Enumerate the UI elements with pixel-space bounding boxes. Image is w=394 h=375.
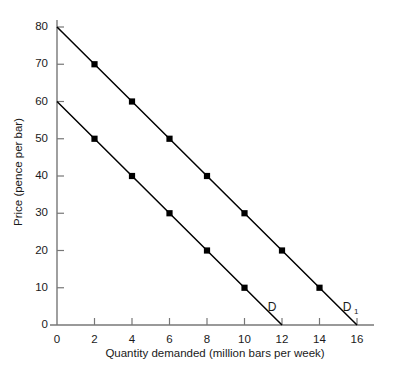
series-layer: DD1 bbox=[57, 27, 359, 325]
y-tick-label: 20 bbox=[35, 244, 48, 256]
series-marker-D1 bbox=[204, 173, 210, 179]
series-D: D bbox=[57, 102, 282, 326]
series-marker-D bbox=[129, 173, 135, 179]
series-marker-D1 bbox=[279, 247, 285, 253]
series-marker-D1 bbox=[91, 61, 97, 67]
axes-group bbox=[50, 20, 374, 325]
y-tick-label: 80 bbox=[35, 20, 48, 32]
series-marker-D1 bbox=[316, 285, 322, 291]
x-tick-label: 4 bbox=[129, 333, 136, 345]
y-tick-label: 10 bbox=[35, 281, 48, 293]
x-tick-label: 10 bbox=[238, 333, 251, 345]
chart-canvas: 01020304050607080 0246810121416 DD1 Quan… bbox=[0, 0, 394, 375]
y-axis-ticks: 01020304050607080 bbox=[35, 20, 64, 330]
x-tick-label: 8 bbox=[204, 333, 210, 345]
y-axis-title: Price (pence per bar) bbox=[12, 118, 24, 226]
x-tick-label: 6 bbox=[166, 333, 172, 345]
series-label-D1: D bbox=[343, 300, 352, 314]
series-marker-D1 bbox=[129, 98, 135, 104]
x-tick-label: 12 bbox=[276, 333, 289, 345]
series-label-subscript-D1: 1 bbox=[354, 307, 359, 316]
series-marker-D1 bbox=[241, 210, 247, 216]
series-marker-D bbox=[166, 210, 172, 216]
x-tick-label: 16 bbox=[351, 333, 364, 345]
series-D1: D1 bbox=[57, 27, 359, 325]
series-label-D: D bbox=[268, 300, 277, 314]
y-tick-label: 0 bbox=[42, 318, 48, 330]
series-marker-D1 bbox=[166, 136, 172, 142]
y-tick-label: 30 bbox=[35, 206, 48, 218]
x-axis-ticks: 0246810121416 bbox=[54, 318, 364, 345]
x-tick-label: 2 bbox=[91, 333, 97, 345]
x-tick-label: 0 bbox=[54, 333, 60, 345]
y-tick-label: 70 bbox=[35, 57, 48, 69]
series-marker-D bbox=[91, 136, 97, 142]
series-marker-D bbox=[241, 285, 247, 291]
x-axis-title: Quantity demanded (million bars per week… bbox=[105, 347, 324, 359]
series-marker-D bbox=[204, 247, 210, 253]
demand-curve-chart: 01020304050607080 0246810121416 DD1 Quan… bbox=[0, 0, 394, 375]
x-tick-label: 14 bbox=[313, 333, 326, 345]
y-tick-label: 60 bbox=[35, 95, 48, 107]
y-tick-label: 40 bbox=[35, 169, 48, 181]
y-tick-label: 50 bbox=[35, 132, 48, 144]
